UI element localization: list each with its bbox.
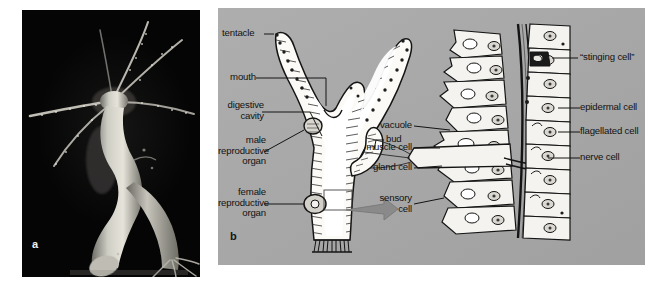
label-nerve-cell: nerve cell: [580, 152, 645, 163]
hydra-photo-drawing: [22, 10, 200, 277]
panel-b-diagram: tentacle mouth digestive cavity male rep…: [218, 8, 645, 265]
leader-male-reproductive-organ: [264, 130, 304, 152]
panel-a-letter: a: [32, 238, 38, 250]
hydra-bud: [126, 182, 179, 270]
panel-b-letter: b: [230, 230, 237, 242]
label-male-reproductive-organ: male reproductive organ: [218, 135, 266, 167]
label-muscle-cell: muscle cell: [340, 142, 412, 153]
label-digestive-cavity: digestive cavity: [218, 100, 264, 121]
label-tentacle: tentacle: [222, 28, 266, 39]
label-vacuole: vacuole: [346, 120, 412, 131]
label-epidermal-cell: epidermal cell: [580, 102, 645, 113]
gastrodermal-cells: [434, 30, 516, 234]
label-female-reproductive-organ: female reproductive organ: [218, 187, 266, 219]
photo-bottom-fringe: [70, 270, 188, 275]
figure-root: a: [0, 0, 653, 293]
basal-disc-fringe: [312, 240, 352, 252]
stinging-cell-cnidocyte: [530, 52, 550, 66]
panel-a-photomicrograph: a: [22, 10, 200, 277]
label-gland-cell: gland cell: [342, 162, 412, 173]
leader-sensory-cell: [414, 198, 444, 204]
leader-vacuole: [414, 126, 450, 130]
ovum: [311, 200, 319, 208]
label-flagellated-cell: flagellated cell: [580, 126, 645, 137]
label-mouth: mouth: [218, 72, 256, 83]
label-stinging-cell: “stinging cell”: [580, 52, 645, 63]
label-sensory-cell: sensory cell: [346, 193, 412, 214]
